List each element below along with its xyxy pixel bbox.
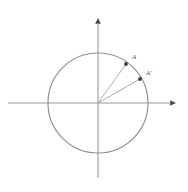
geometry-diagram: A A' [0, 0, 188, 192]
radius-to-A [98, 64, 126, 103]
radius-to-A-prime [98, 79, 140, 103]
y-axis-arrowhead [95, 18, 101, 24]
figure-canvas: A A' [0, 0, 188, 192]
point-marker-A-prime [138, 77, 142, 81]
point-label-A: A [131, 53, 137, 61]
point-marker-A [124, 62, 128, 66]
point-label-A-prime: A' [145, 69, 152, 77]
x-axis-arrowhead [170, 100, 176, 106]
